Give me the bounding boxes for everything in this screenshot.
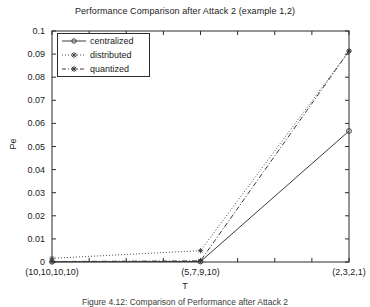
x-tick-label: (2,3,2,1): [332, 267, 366, 277]
legend-label-quantized: quantized: [90, 62, 129, 76]
legend: centralized distributed: [57, 33, 150, 77]
y-tick-label: 0.05: [5, 142, 45, 152]
legend-item-distributed: distributed: [58, 48, 149, 62]
y-tick-label: 0.04: [5, 165, 45, 175]
y-tick-label: 0.02: [5, 211, 45, 221]
y-tick-label: 0: [5, 257, 45, 267]
series-distributed: [49, 48, 351, 260]
legend-label-distributed: distributed: [90, 48, 132, 62]
legend-item-centralized: centralized: [58, 34, 149, 48]
legend-marker-quantized: [60, 62, 90, 76]
series-centralized: [50, 129, 352, 265]
legend-marker-centralized: [60, 34, 90, 48]
series-quantized: [49, 48, 351, 264]
x-tick-label: (5,7,9,10): [181, 267, 220, 277]
y-tick-label: 0.09: [5, 49, 45, 59]
legend-marker-distributed: [60, 48, 90, 62]
y-tick-label: 0.06: [5, 118, 45, 128]
y-tick-label: 0.07: [5, 95, 45, 105]
data-series-layer: [49, 48, 351, 264]
y-tick-label: 0.03: [5, 188, 45, 198]
legend-item-quantized: quantized: [58, 62, 149, 76]
x-tick-label: (10,10,10,10): [25, 267, 79, 277]
figure-caption: Figure 4.12: Comparison of Performance a…: [0, 297, 370, 307]
y-tick-label: 0.1: [5, 26, 45, 36]
legend-label-centralized: centralized: [90, 34, 134, 48]
y-tick-label: 0.01: [5, 234, 45, 244]
y-tick-label: 0.08: [5, 72, 45, 82]
